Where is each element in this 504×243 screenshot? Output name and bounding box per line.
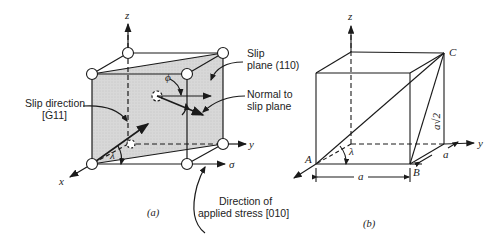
point-A-label: A [304,153,312,165]
normal-label-2: slip plane [247,100,292,112]
caption-a: (a) [147,207,160,219]
slip-system-figure: z y x σ ϕ λ Slip plane (110) Normal to s… [0,0,504,243]
z-axis-label-b: z [347,10,353,22]
y-axis-label-a: y [248,138,254,150]
line-AC [316,53,444,164]
y-axis-label-b: y [477,137,483,149]
phi-label: ϕ [165,71,171,83]
x-axis-label-a: x [58,175,64,187]
sigma-label: σ [229,158,235,170]
diagonal-label: a√2 [430,112,442,130]
z-axis-label-a: z [124,9,130,21]
lambda-label-a: λ [109,149,115,161]
x-axis-b [294,164,316,178]
point-B-label: B [413,166,420,178]
slip-direction-label-2: [Ġ11] [42,109,67,121]
point-C-label: C [449,46,457,58]
y-axis-b [444,143,474,144]
edge-a-bottom-label: a [358,170,364,182]
slip-plane-label: Slip [247,47,265,59]
caption-b: (b) [363,218,376,230]
slip-plane-label-2: plane (110) [247,59,299,71]
stress-direction-label: Direction of [219,195,272,207]
stress-direction-label-2: applied stress [010] [198,207,289,219]
slip-direction-label: Slip direction [25,97,85,109]
normal-label: Normal to [247,88,293,100]
edge-a-side-label: a [443,148,449,160]
lambda-label-b: λ [348,145,354,157]
